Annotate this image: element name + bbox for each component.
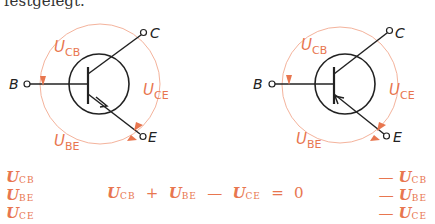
- left-voltage-uce: UCE: [6, 205, 35, 223]
- right-voltage-ucb: —UCB: [373, 169, 427, 187]
- npn-emitter-terminal: [140, 134, 146, 140]
- pnp-uce-arrowhead-icon: [377, 122, 386, 131]
- left-voltage-ube: UBE: [6, 187, 35, 205]
- pnp-label-e: E: [393, 129, 402, 145]
- kirchhoff-equation: UCB + UBE — UCE = 0: [107, 184, 304, 202]
- left-voltage-ucb: UCB: [6, 169, 35, 187]
- right-voltage-column: —UCB —UBE —UCE: [373, 169, 427, 223]
- pnp-uce-label: UCE: [389, 81, 415, 102]
- pnp-transistor: C B E UCB UCE UBE: [253, 25, 415, 151]
- npn-label-c: C: [150, 25, 160, 41]
- npn-ube-arrowhead-icon: [127, 135, 137, 141]
- pnp-ucb-label: UCB: [301, 36, 327, 57]
- npn-ube-label: UBE: [54, 132, 80, 153]
- npn-base-terminal: [24, 81, 30, 87]
- pnp-label-c: C: [395, 25, 405, 41]
- npn-uce-label: UCE: [143, 81, 169, 102]
- pnp-ube-arrowhead-icon: [370, 135, 380, 141]
- pnp-emitter-terminal: [384, 133, 390, 139]
- npn-label-b: B: [9, 76, 19, 92]
- transistor-diagrams: C B E UCB UCE UBE C B E UCB UCE UBE: [0, 0, 435, 165]
- pnp-label-b: B: [253, 76, 263, 92]
- npn-collector-terminal: [141, 30, 147, 36]
- npn-transistor: C B E UCB UCE UBE: [9, 24, 169, 153]
- pnp-ube-label: UBE: [296, 130, 322, 151]
- pnp-base-terminal: [269, 81, 275, 87]
- left-voltage-column: UCB UBE UCE: [6, 169, 35, 223]
- pnp-collector-terminal: [387, 28, 393, 34]
- right-voltage-uce: —UCE: [373, 205, 427, 223]
- npn-label-e: E: [148, 129, 157, 145]
- npn-ucb-label: UCB: [54, 38, 80, 59]
- right-voltage-ube: —UBE: [373, 187, 427, 205]
